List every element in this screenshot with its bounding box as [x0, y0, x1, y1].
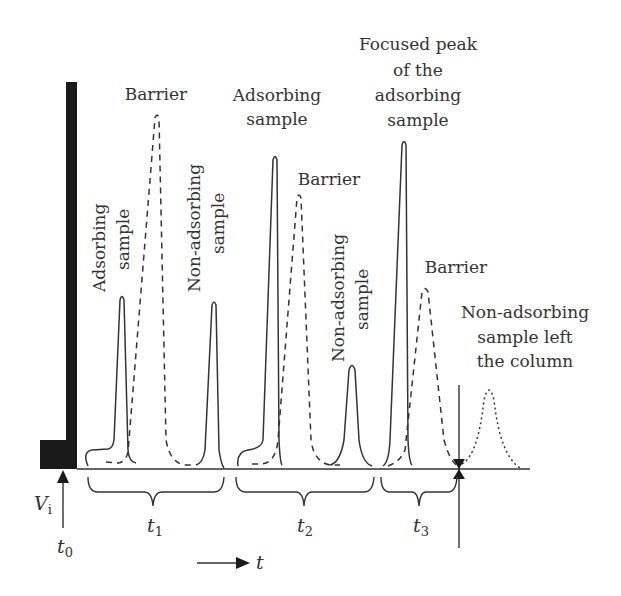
label-t3: t3: [413, 514, 429, 539]
adsorbing-peak-2: [238, 157, 282, 467]
label-left-column-line1: Non-adsorbing: [461, 302, 589, 322]
brace-t2: [236, 477, 374, 506]
label-adsorbing-sample-1-line2: sample: [113, 209, 133, 270]
column-wall: [40, 82, 77, 469]
barrier-peak-3: [388, 289, 458, 467]
vi-arrow-head-icon: [57, 470, 69, 483]
label-left-column-line3: the column: [477, 351, 574, 371]
brace-t1: [88, 477, 224, 506]
label-non-adsorbing-1-line2: sample: [208, 193, 228, 254]
label-adsorbing-sample-2-line1: Adsorbing: [232, 85, 322, 105]
label-t2: t2: [297, 514, 313, 539]
barrier-peak-1: [106, 115, 195, 465]
label-non-adsorbing-2-line1: Non-adsorbing: [328, 234, 348, 362]
label-focused-peak-line4: sample: [387, 110, 448, 130]
label-focused-peak-line2: of the: [393, 60, 443, 80]
label-vi: Vi: [34, 492, 52, 517]
brace-t3: [381, 477, 457, 506]
label-t1: t1: [147, 514, 163, 539]
label-left-column-line2: sample left: [477, 327, 573, 347]
label-barrier-1: Barrier: [125, 84, 188, 104]
focused-peak: [383, 142, 412, 467]
label-t0: t0: [57, 535, 73, 560]
label-focused-peak-line3: adsorbing: [375, 85, 461, 105]
outlet-arrow-up-icon: [453, 469, 465, 479]
label-focused-peak-line1: Focused peak: [359, 34, 478, 54]
barrier-peak-2: [252, 195, 340, 465]
label-adsorbing-sample-2-line2: sample: [246, 109, 307, 129]
non-adsorbing-peak-2: [330, 366, 372, 467]
adsorbing-peak-1: [86, 297, 136, 467]
column-foot: [40, 441, 68, 469]
label-barrier-3: Barrier: [425, 257, 488, 277]
label-barrier-2: Barrier: [298, 169, 361, 189]
label-non-adsorbing-2-line2: sample: [352, 269, 372, 330]
time-arrow-head-icon: [236, 557, 250, 569]
chromatography-focusing-diagram: Barrier Adsorbing sample Non-adsorbing s…: [0, 0, 621, 596]
non-adsorbing-peak-1: [196, 302, 224, 468]
label-non-adsorbing-1-line1: Non-adsorbing: [184, 164, 204, 292]
label-adsorbing-sample-1-line1: Adsorbing: [89, 203, 109, 293]
label-time: t: [256, 551, 264, 573]
eluted-peak: [462, 390, 520, 468]
